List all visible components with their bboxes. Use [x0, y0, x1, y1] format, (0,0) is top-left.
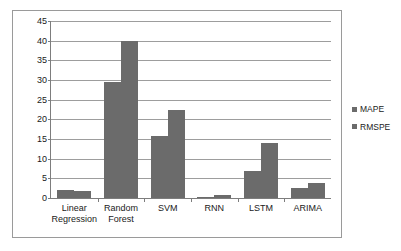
x-tick-mark: [144, 198, 145, 202]
bar-rmspe: [261, 143, 278, 198]
y-tick-label: 45: [37, 17, 47, 26]
y-tick-label: 20: [37, 115, 47, 124]
legend-item[interactable]: MAPE: [352, 105, 390, 114]
legend-label: MAPE: [360, 105, 384, 114]
legend-label: RMSPE: [360, 123, 390, 132]
bar-group: [144, 21, 191, 198]
bar-rmspe: [308, 183, 325, 198]
bar-mape: [151, 136, 168, 198]
chart-legend: MAPERMSPE: [352, 105, 390, 140]
bar-group: [51, 21, 98, 198]
legend-swatch-icon: [352, 124, 357, 129]
y-tick-label: 10: [37, 154, 47, 163]
bar-group: [284, 21, 331, 198]
plot-area: 051015202530354045 Linear RegressionRand…: [50, 21, 331, 199]
y-tick-label: 0: [42, 194, 47, 203]
x-tick-mark: [98, 198, 99, 202]
bar-mape: [291, 188, 308, 198]
y-tick-label: 25: [37, 95, 47, 104]
bar-rmspe: [214, 195, 231, 198]
bar-group: [238, 21, 285, 198]
y-tick-label: 30: [37, 76, 47, 85]
y-tick-label: 15: [37, 135, 47, 144]
y-tick-label: 35: [37, 56, 47, 65]
x-tick-mark: [238, 198, 239, 202]
legend-swatch-icon: [352, 107, 357, 112]
y-tick-label: 40: [37, 36, 47, 45]
bar-mape: [244, 171, 261, 198]
x-tick-mark: [191, 198, 192, 202]
bar-series-layer: [51, 21, 331, 198]
bar-mape: [57, 190, 74, 198]
x-tick-mark: [284, 198, 285, 202]
y-tick-label: 5: [42, 174, 47, 183]
y-tick-mark: [48, 198, 51, 199]
bar-mape: [104, 82, 121, 198]
bar-rmspe: [74, 191, 91, 198]
legend-item[interactable]: RMSPE: [352, 123, 390, 132]
bar-mape: [197, 197, 214, 198]
bar-group: [191, 21, 238, 198]
bar-group: [98, 21, 145, 198]
bar-rmspe: [168, 110, 185, 199]
x-category-label: ARIMA: [278, 203, 338, 214]
chart-frame: 051015202530354045 Linear RegressionRand…: [12, 10, 342, 238]
bar-rmspe: [121, 41, 138, 198]
